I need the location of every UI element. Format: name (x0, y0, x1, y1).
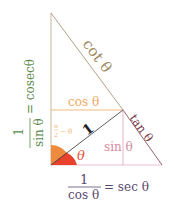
theta-label: θ (77, 148, 85, 163)
cosec-label: 1 sin θ = cosecθ (11, 59, 46, 148)
sin-label: sin θ (104, 140, 133, 154)
sec-eq: = sec θ (104, 180, 149, 194)
cot-label: cot θ (79, 36, 116, 77)
sec-den: cos θ (68, 188, 99, 202)
complement-den: 2 (54, 131, 58, 138)
radius-label: 1 (79, 120, 96, 139)
cos-label: cos θ (68, 95, 99, 109)
cosec-eq: = cosecθ (23, 59, 37, 114)
complement-num: π (54, 122, 58, 129)
cosec-num: 1 (11, 128, 26, 136)
complement-rest: − θ (60, 128, 72, 136)
cosec-den: sin θ (32, 118, 46, 147)
sec-label: 1 cos θ = sec θ (68, 172, 149, 202)
trig-diagram: cot θ cos θ tan θ sin θ 1 θ π 2 − θ 1 si… (0, 0, 174, 214)
sec-num: 1 (80, 172, 88, 187)
